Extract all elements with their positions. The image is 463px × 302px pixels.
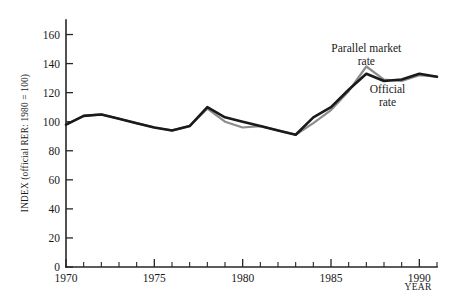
chart-figure: 020406080100120140160 197019751980198519… <box>0 0 463 302</box>
x-tick-label: 1970 <box>55 272 78 284</box>
x-tick-label: 1980 <box>231 272 254 284</box>
y-axis-tick-labels: 020406080100120140160 <box>43 29 61 273</box>
y-tick-label: 80 <box>49 145 61 157</box>
y-axis-ticks <box>66 35 73 267</box>
y-tick-label: 40 <box>49 203 61 215</box>
x-axis-title: YEAR <box>404 282 431 292</box>
annotation-official-rate: Officialrate <box>370 83 406 108</box>
y-axis-title: INDEX (official RER: 1980 = 100) <box>20 74 31 212</box>
y-tick-label: 160 <box>43 29 61 41</box>
x-tick-label: 1975 <box>143 272 166 284</box>
y-tick-label: 100 <box>43 116 61 128</box>
annotation-label: Officialrate <box>370 83 406 108</box>
y-tick-label: 120 <box>43 87 61 99</box>
annotation-label: Parallel marketrate <box>331 42 402 67</box>
y-tick-label: 140 <box>43 58 61 70</box>
rer-index-line-chart: 020406080100120140160 197019751980198519… <box>0 0 463 302</box>
annotation-parallel-market-rate: Parallel marketrate <box>331 42 402 67</box>
x-axis-tick-labels: 19701975198019851990 <box>55 272 432 284</box>
x-tick-label: 1985 <box>320 272 343 284</box>
x-axis-minor-ticks <box>84 262 437 267</box>
y-tick-label: 60 <box>49 174 61 186</box>
y-tick-label: 20 <box>49 232 61 244</box>
